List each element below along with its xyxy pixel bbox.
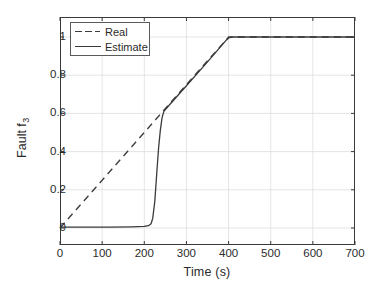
y-tick-label: 0.4 — [26, 146, 66, 158]
legend-swatch-solid — [75, 41, 105, 53]
y-axis-label-text: Fault f — [15, 123, 29, 158]
legend-label-estimate: Estimate — [105, 42, 148, 53]
x-tick-label: 300 — [177, 248, 196, 260]
x-tick-label: 600 — [303, 248, 322, 260]
figure-canvas: 00.20.40.60.81 0100200300400500600700 Ti… — [0, 0, 374, 290]
legend-label-real: Real — [105, 27, 128, 38]
x-tick-label: 100 — [93, 248, 112, 260]
y-tick-label: 0.2 — [26, 184, 66, 196]
x-axis-label-text: Time (s) — [184, 265, 231, 279]
y-tick-label: 1 — [26, 31, 66, 43]
y-axis-label-subscript: 3 — [21, 118, 31, 123]
x-axis-label: Time (s) — [0, 265, 374, 279]
legend-swatch-dashed — [75, 26, 105, 38]
legend-box: Real Estimate — [70, 22, 150, 56]
y-tick-label: 0 — [26, 222, 66, 234]
legend-item-estimate: Estimate — [71, 39, 149, 55]
legend-item-real: Real — [71, 24, 149, 40]
y-tick-label: 0.8 — [26, 69, 66, 81]
x-tick-label: 200 — [135, 248, 154, 260]
x-tick-label: 0 — [57, 248, 63, 260]
x-tick-label: 500 — [261, 248, 280, 260]
x-tick-label: 400 — [219, 248, 238, 260]
y-tick-label: 0.6 — [26, 108, 66, 120]
x-tick-label: 700 — [345, 248, 364, 260]
y-axis-label: Fault f3 — [15, 68, 29, 208]
